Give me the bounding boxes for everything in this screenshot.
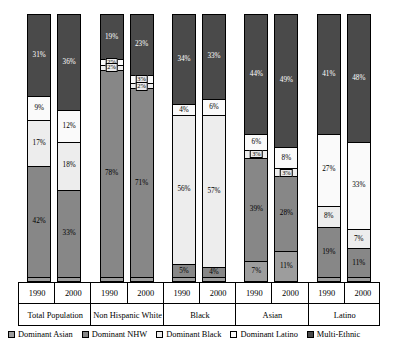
segment-dominant-black[interactable]: 3%	[245, 151, 267, 159]
stacked-bar: 41%27%8%19%	[317, 14, 341, 282]
segment-dominant-nhw[interactable]: 33%	[58, 191, 80, 279]
category-label-row: Total PopulationNon Hispanic WhiteBlackA…	[19, 304, 379, 326]
year-label-1990-2: 1990	[164, 283, 200, 303]
segment-dominant-asian[interactable]	[101, 278, 123, 281]
year-label-2000-4: 2000	[345, 283, 381, 303]
bar-non-hispanic-white-2000[interactable]: 23%3%2%71%	[130, 14, 154, 282]
stacked-bar: 36%12%18%33%	[57, 14, 81, 282]
year-label-2000-2: 2000	[200, 283, 236, 303]
segment-value-label: 6%	[209, 104, 219, 111]
segment-dominant-asian[interactable]: 7%	[245, 262, 267, 281]
segment-dominant-asian[interactable]	[173, 278, 195, 281]
segment-dominant-nhw[interactable]: 4%	[203, 268, 225, 279]
legend-swatch-icon	[307, 331, 314, 338]
year-label-2000-3: 2000	[272, 283, 308, 303]
bar-latino-2000[interactable]: 48%33%7%11%	[347, 14, 371, 282]
segment-value-label: 41%	[322, 71, 335, 78]
year-label-row: 1990200019902000199020001990200019902000	[19, 283, 379, 304]
stacked-bar: 19%2%2%78%	[100, 14, 124, 282]
segment-value-label: 56%	[177, 186, 190, 193]
segment-value-label: 39%	[250, 206, 263, 213]
segment-dominant-nhw[interactable]: 78%	[101, 71, 123, 278]
segment-dominant-asian[interactable]	[318, 278, 340, 281]
segment-value-label: 2%	[135, 82, 148, 90]
segment-value-label: 7%	[354, 236, 364, 243]
bar-asian-2000[interactable]: 49%8%3%28%11%	[274, 14, 298, 282]
segment-dominant-asian[interactable]	[203, 278, 225, 281]
segment-multi-ethnic[interactable]: 33%	[203, 15, 225, 100]
legend-item-multi-ethnic[interactable]: Multi-Ethnic	[307, 330, 360, 339]
segment-multi-ethnic[interactable]: 34%	[173, 15, 195, 105]
segment-dominant-latino[interactable]: 9%	[28, 97, 50, 121]
plot-area: 31%9%17%42%36%12%18%33%19%2%2%78%23%3%2%…	[18, 14, 380, 282]
bar-black-2000[interactable]: 33%6%57%4%	[202, 14, 226, 282]
segment-dominant-black[interactable]: 8%	[318, 207, 340, 228]
segment-dominant-black[interactable]: 17%	[28, 121, 50, 166]
legend-item-dominant-nhw[interactable]: Dominant NHW	[82, 330, 148, 339]
legend-label: Dominant NHW	[92, 330, 148, 339]
segment-dominant-nhw[interactable]: 39%	[245, 159, 267, 263]
segment-dominant-asian[interactable]: 11%	[275, 252, 297, 281]
segment-dominant-asian[interactable]	[28, 278, 50, 281]
segment-multi-ethnic[interactable]: 36%	[58, 15, 80, 111]
stacked-bar: 44%6%3%39%7%	[244, 14, 268, 282]
segment-dominant-latino[interactable]: 12%	[58, 111, 80, 143]
segment-dominant-latino[interactable]: 6%	[245, 135, 267, 151]
stacked-bar: 31%9%17%42%	[27, 14, 51, 282]
segment-value-label: 6%	[252, 139, 262, 146]
segment-dominant-latino[interactable]: 8%	[275, 148, 297, 169]
bar-total-population-2000[interactable]: 36%12%18%33%	[57, 14, 81, 282]
segment-dominant-asian[interactable]	[58, 278, 80, 281]
segment-value-label: 48%	[352, 75, 365, 82]
segment-multi-ethnic[interactable]: 19%	[101, 15, 123, 60]
legend-item-dominant-black[interactable]: Dominant Black	[156, 330, 221, 339]
segment-multi-ethnic[interactable]: 44%	[245, 15, 267, 135]
chart-root: 31%9%17%42%36%12%18%33%19%2%2%78%23%3%2%…	[0, 0, 393, 343]
segment-dominant-latino[interactable]: 27%	[318, 135, 340, 207]
segment-dominant-nhw[interactable]: 5%	[173, 265, 195, 278]
segment-dominant-asian[interactable]	[131, 278, 153, 281]
segment-value-label: 11%	[352, 260, 365, 267]
legend-swatch-icon	[230, 331, 237, 338]
bar-asian-1990[interactable]: 44%6%3%39%7%	[244, 14, 268, 282]
bar-non-hispanic-white-1990[interactable]: 19%2%2%78%	[100, 14, 124, 282]
segment-value-label: 27%	[322, 166, 335, 173]
segment-dominant-black[interactable]: 57%	[203, 116, 225, 268]
legend-swatch-icon	[8, 331, 15, 338]
segment-dominant-latino[interactable]: 33%	[348, 143, 370, 231]
legend-item-dominant-asian[interactable]: Dominant Asian	[8, 330, 73, 339]
category-label-black: Black	[164, 304, 236, 326]
segment-value-label: 17%	[33, 140, 46, 147]
legend-label: Multi-Ethnic	[317, 330, 360, 339]
legend-swatch-icon	[82, 331, 89, 338]
segment-dominant-nhw[interactable]: 19%	[318, 228, 340, 279]
segment-dominant-black[interactable]: 3%	[275, 169, 297, 177]
segment-multi-ethnic[interactable]: 23%	[131, 15, 153, 76]
year-label-1990-0: 1990	[19, 283, 55, 303]
segment-value-label: 2%	[105, 63, 118, 71]
bar-latino-1990[interactable]: 41%27%8%19%	[317, 14, 341, 282]
segment-dominant-nhw[interactable]: 71%	[131, 89, 153, 278]
category-label-non-hispanic-white: Non Hispanic White	[91, 304, 163, 326]
segment-multi-ethnic[interactable]: 31%	[28, 15, 50, 97]
segment-multi-ethnic[interactable]: 48%	[348, 15, 370, 143]
segment-dominant-nhw[interactable]: 11%	[348, 249, 370, 278]
bar-black-1990[interactable]: 34%4%56%5%	[172, 14, 196, 282]
segment-dominant-latino[interactable]: 4%	[173, 105, 195, 116]
bar-total-population-1990[interactable]: 31%9%17%42%	[27, 14, 51, 282]
segment-dominant-black[interactable]: 7%	[348, 230, 370, 249]
segment-dominant-black[interactable]: 18%	[58, 143, 80, 191]
segment-dominant-asian[interactable]	[348, 278, 370, 281]
segment-dominant-latino[interactable]: 6%	[203, 100, 225, 116]
segment-value-label: 3%	[280, 169, 293, 177]
legend-label: Dominant Asian	[18, 330, 73, 339]
year-label-2000-0: 2000	[55, 283, 91, 303]
year-label-1990-1: 1990	[91, 283, 127, 303]
segment-multi-ethnic[interactable]: 41%	[318, 15, 340, 135]
legend-label: Dominant Black	[166, 330, 221, 339]
legend-item-dominant-latino[interactable]: Dominant Latino	[230, 330, 297, 339]
segment-dominant-nhw[interactable]: 42%	[28, 167, 50, 279]
segment-dominant-nhw[interactable]: 28%	[275, 177, 297, 251]
segment-dominant-black[interactable]: 56%	[173, 116, 195, 265]
segment-multi-ethnic[interactable]: 49%	[275, 15, 297, 148]
